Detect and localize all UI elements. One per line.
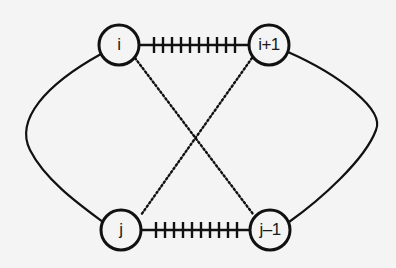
edge-i-to-j-curve — [26, 54, 103, 222]
diagram-graphics — [0, 0, 396, 268]
node-i1-label: i+1 — [249, 25, 289, 65]
node-j1-label: j–1 — [250, 210, 290, 250]
edge-i1-to-j1-curve — [288, 52, 377, 222]
node-i-label: i — [99, 25, 139, 65]
node-j-label: j — [101, 210, 141, 250]
edge-j-to-j1-hatched — [141, 222, 250, 238]
edge-i-to-i1-hatched — [139, 37, 249, 53]
diagram-canvas: i i+1 j j–1 — [0, 0, 396, 268]
